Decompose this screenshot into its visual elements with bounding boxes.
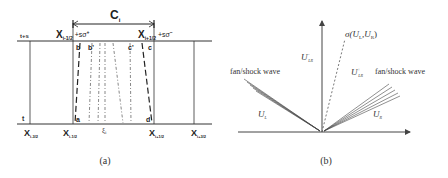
bracket-label: Ci (110, 8, 121, 23)
point-a: a (76, 116, 80, 123)
bottom-label-xi-i: ξi (102, 126, 107, 135)
panel-a: Ci t+s t Xi-1/2+sσ+ Xi+1/2+sσ− b b' c' c… (17, 8, 212, 167)
right-fan (324, 84, 400, 131)
u-l-label: UL (258, 109, 268, 120)
panel-b: σ(UL,UR) U−LR U+LR fan/shock wave fan/sh… (230, 21, 425, 167)
bottom-label-x-i-1-2: Xi-1/2 (63, 128, 78, 139)
left-fan (244, 79, 320, 131)
u-r-label: UR (373, 109, 383, 120)
bottom-label-x-i+3-2: Xi+3/2 (191, 128, 207, 139)
inner-line-4 (113, 43, 123, 123)
point-d: d (146, 116, 150, 123)
time-label-bottom: t (22, 115, 25, 122)
dashed-line-c-d (142, 43, 152, 123)
sigma-label: σ(UL,UR) (345, 29, 377, 40)
u-lr-plus-label: U+LR (351, 67, 363, 78)
bottom-label-x-i+1-2: Xi+1/2 (149, 128, 165, 139)
inner-line-c-prime (130, 43, 131, 123)
point-b-prime: b' (88, 44, 94, 51)
bottom-label-x-i-3-2: Xi-3/2 (24, 128, 39, 139)
fan-right-label: fan/shock wave (375, 67, 425, 76)
time-label-top: t+s (20, 33, 30, 39)
inner-line-2 (98, 43, 100, 123)
point-c: c (148, 44, 152, 51)
inner-line-b-prime (89, 43, 92, 123)
figure: Ci t+s t Xi-1/2+sσ+ Xi+1/2+sσ− b b' c' c… (0, 0, 448, 178)
point-b: b (76, 44, 80, 51)
top-right-label: Xi+1/2+sσ− (138, 29, 173, 41)
dashed-line-b-a (75, 43, 80, 123)
caption-b: (b) (320, 155, 332, 167)
u-lr-minus-label: U−LR (301, 52, 313, 63)
caption-a: (a) (99, 155, 110, 167)
point-c-prime: c' (128, 44, 134, 51)
fan-left-label: fan/shock wave (230, 67, 280, 76)
